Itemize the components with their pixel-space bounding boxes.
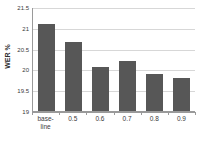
y-axis-tick-label: 21.5 [17, 5, 29, 11]
x-axis-tick-label: 0.7 [114, 114, 141, 141]
y-axis-tick-label: 19.5 [17, 88, 29, 94]
y-axis-tick-label: 19 [22, 109, 29, 115]
x-axis-tick-labels: base-line0.50.60.70.80.9 [32, 114, 195, 141]
bar-slot [33, 8, 60, 111]
bar[interactable] [92, 67, 109, 111]
bar-chart: WER % 21.52120.52019.519 base-line0.50.6… [0, 0, 200, 141]
y-axis-tick-label: 20.5 [17, 47, 29, 53]
bar[interactable] [119, 61, 136, 111]
bar-slot [87, 8, 114, 111]
x-axis-tick-label-line: line [32, 123, 59, 131]
bar-slot [168, 8, 195, 111]
x-axis-tick-mark [195, 112, 196, 115]
x-axis-tick-label-line: 0.6 [86, 115, 113, 123]
bar-series [33, 8, 195, 111]
x-axis-tick-label-line: base- [32, 115, 59, 123]
y-axis-tick-label: 21 [22, 26, 29, 32]
x-axis-tick-label: base-line [32, 114, 59, 141]
x-axis-tick-label-line: 0.7 [114, 115, 141, 123]
x-axis-tick-label: 0.9 [168, 114, 195, 141]
x-axis-tick-label-line: 0.8 [141, 115, 168, 123]
bar[interactable] [146, 74, 163, 111]
x-axis-tick-label: 0.8 [141, 114, 168, 141]
bar-slot [141, 8, 168, 111]
x-axis-tick-label: 0.5 [59, 114, 86, 141]
plot-area [32, 8, 195, 112]
bar[interactable] [38, 24, 55, 111]
y-axis-title-label: WER % [4, 44, 11, 69]
y-axis-tick-labels: 21.52120.52019.519 [12, 8, 30, 112]
bar[interactable] [65, 42, 82, 111]
x-axis-tick-label-line: 0.5 [59, 115, 86, 123]
bar-slot [60, 8, 87, 111]
bar-slot [114, 8, 141, 111]
bar[interactable] [173, 78, 190, 111]
y-axis-tick-label: 20 [22, 67, 29, 73]
x-axis-tick-label-line: 0.9 [168, 115, 195, 123]
x-axis-tick-label: 0.6 [86, 114, 113, 141]
